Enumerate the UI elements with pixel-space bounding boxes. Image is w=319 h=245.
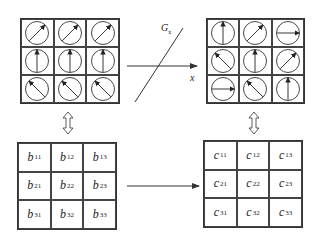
input-grid-cell-1-3: [86, 19, 119, 47]
matrix-b-entry-3-3: b33: [83, 200, 116, 229]
arrow-nw-icon: [90, 76, 116, 102]
input-matrix-b: b11b12b13b21b22b23b31b32b33: [17, 142, 117, 230]
arrow-e-icon: [210, 76, 236, 102]
matrix-index: 11: [34, 153, 41, 161]
matrix-index: 13: [285, 151, 292, 159]
operator-subscript: x: [168, 29, 171, 35]
arrow-ne-icon: [275, 48, 301, 74]
input-grid-cell-1-2: [54, 19, 87, 47]
output-grid-cell-1-3: [272, 19, 304, 47]
matrix-index: 21: [220, 180, 227, 188]
input-grid-cell-2-3: [86, 47, 119, 75]
matrix-symbol: c: [246, 205, 251, 220]
input-orientation-grid: [20, 18, 120, 104]
arrow-ne-icon: [90, 20, 116, 46]
double-vertical-arrow-icon: [249, 112, 259, 134]
arrow-nw-icon: [210, 48, 236, 74]
matrix-index: 32: [253, 209, 260, 217]
matrix-symbol: c: [214, 205, 219, 220]
arrow-n-icon: [210, 20, 236, 46]
matrix-symbol: b: [27, 150, 33, 165]
output-grid-cell-3-2: [239, 75, 271, 103]
output-grid-cell-1-1: [207, 19, 239, 47]
arrow-n-icon: [24, 48, 50, 74]
matrix-symbol: c: [246, 148, 251, 163]
diagonal-line-icon: [135, 28, 183, 102]
matrix-index: 21: [34, 182, 41, 190]
matrix-symbol: c: [214, 148, 219, 163]
output-grid-cell-2-2: [239, 47, 271, 75]
axis-label: x: [190, 72, 194, 83]
output-grid-cell-1-2: [239, 19, 271, 47]
arrow-nw-icon: [24, 76, 50, 102]
matrix-index: 33: [285, 209, 292, 217]
matrix-symbol: b: [27, 207, 33, 222]
output-grid-cell-2-3: [272, 47, 304, 75]
matrix-index: 12: [67, 153, 74, 161]
matrix-index: 22: [253, 180, 260, 188]
matrix-symbol: c: [279, 148, 284, 163]
matrix-c-entry-2-1: c21: [204, 170, 237, 199]
arrow-nw-icon: [57, 76, 83, 102]
matrix-b-entry-2-1: b21: [18, 172, 51, 201]
matrix-b-entry-1-3: b13: [83, 143, 116, 172]
output-matrix-c: c11c12c13c21c22c23c31c32c33: [203, 140, 303, 228]
matrix-b-entry-1-1: b11: [18, 143, 51, 172]
matrix-index: 22: [67, 182, 74, 190]
arrow-n-icon: [275, 76, 301, 102]
matrix-symbol: b: [27, 178, 33, 193]
matrix-c-entry-2-3: c23: [269, 170, 302, 199]
matrix-index: 23: [100, 182, 107, 190]
output-grid-cell-3-3: [272, 75, 304, 103]
matrix-b-entry-2-3: b23: [83, 172, 116, 201]
matrix-c-entry-1-1: c11: [204, 141, 237, 170]
arrow-e-icon: [275, 20, 301, 46]
matrix-symbol: b: [60, 207, 66, 222]
matrix-symbol: c: [214, 176, 219, 191]
matrix-index: 13: [100, 153, 107, 161]
matrix-index: 33: [100, 211, 107, 219]
input-grid-cell-1-1: [21, 19, 54, 47]
matrix-symbol: b: [60, 178, 66, 193]
matrix-index: 11: [220, 151, 227, 159]
output-grid-cell-2-1: [207, 47, 239, 75]
matrix-b-entry-3-1: b31: [18, 200, 51, 229]
matrix-b-entry-2-2: b22: [51, 172, 84, 201]
matrix-symbol: b: [93, 178, 99, 193]
matrix-c-entry-1-2: c12: [237, 141, 270, 170]
arrow-ne-icon: [242, 20, 268, 46]
input-grid-cell-3-3: [86, 75, 119, 103]
arrow-ne-icon: [24, 20, 50, 46]
matrix-symbol: b: [93, 150, 99, 165]
matrix-c-entry-3-3: c33: [269, 198, 302, 227]
matrix-c-entry-2-2: c22: [237, 170, 270, 199]
matrix-b-entry-1-2: b12: [51, 143, 84, 172]
arrow-n-icon: [57, 48, 83, 74]
matrix-index: 31: [220, 209, 227, 217]
matrix-c-entry-3-1: c31: [204, 198, 237, 227]
matrix-c-entry-1-3: c13: [269, 141, 302, 170]
matrix-symbol: c: [279, 205, 284, 220]
operator-label: Gx: [161, 22, 171, 35]
matrix-symbol: b: [93, 207, 99, 222]
matrix-index: 32: [67, 211, 74, 219]
arrow-nw-icon: [242, 76, 268, 102]
matrix-b-entry-3-2: b32: [51, 200, 84, 229]
matrix-index: 12: [253, 151, 260, 159]
input-grid-cell-3-1: [21, 75, 54, 103]
matrix-symbol: b: [60, 150, 66, 165]
arrow-n-icon: [242, 48, 268, 74]
input-grid-cell-3-2: [54, 75, 87, 103]
arrow-n-icon: [90, 48, 116, 74]
output-orientation-grid: [206, 18, 305, 104]
arrow-ne-icon: [57, 20, 83, 46]
matrix-symbol: c: [246, 176, 251, 191]
matrix-c-entry-3-2: c32: [237, 198, 270, 227]
matrix-index: 31: [34, 211, 41, 219]
double-vertical-arrow-icon: [63, 112, 73, 134]
input-grid-cell-2-1: [21, 47, 54, 75]
output-grid-cell-3-1: [207, 75, 239, 103]
input-grid-cell-2-2: [54, 47, 87, 75]
matrix-symbol: c: [279, 176, 284, 191]
matrix-index: 23: [285, 180, 292, 188]
